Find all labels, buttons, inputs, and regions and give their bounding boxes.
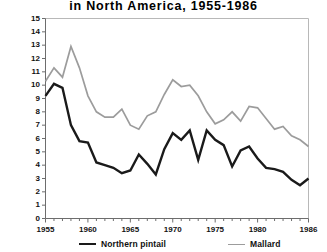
y-axis-tick-label: 1 bbox=[10, 200, 40, 209]
y-axis-ticks bbox=[42, 19, 46, 219]
legend-swatch-mallard bbox=[228, 244, 245, 245]
series-line-mallard bbox=[46, 47, 309, 147]
legend-label-mallard: Mallard bbox=[250, 239, 280, 249]
y-axis-tick-label: 14 bbox=[10, 27, 40, 36]
y-axis-tick-label: 12 bbox=[10, 54, 40, 63]
x-axis-tick-label: 1960 bbox=[68, 225, 108, 234]
legend-entry-mallard[interactable]: Mallard bbox=[228, 238, 280, 250]
y-axis-tick-label: 6 bbox=[10, 134, 40, 143]
y-axis-tick-label: 2 bbox=[10, 187, 40, 196]
y-axis-tick-label: 15 bbox=[10, 14, 40, 23]
y-axis-tick-label: 5 bbox=[10, 147, 40, 156]
y-axis-tick-label: 8 bbox=[10, 107, 40, 116]
legend-entry-northern-pintail[interactable]: Northern pintail bbox=[79, 238, 166, 250]
y-axis-tick-label: 7 bbox=[10, 120, 40, 129]
x-axis-tick-label: 1965 bbox=[110, 225, 150, 234]
x-axis-tick-label: 1975 bbox=[195, 225, 235, 234]
legend-swatch-northern-pintail bbox=[79, 243, 96, 245]
y-axis-tick-label: 10 bbox=[10, 80, 40, 89]
y-axis-tick-label: 4 bbox=[10, 160, 40, 169]
x-axis-tick-label: 1986 bbox=[289, 225, 327, 234]
legend-label-northern-pintail: Northern pintail bbox=[101, 239, 166, 249]
x-axis-ticks bbox=[46, 219, 309, 223]
y-axis-tick-label: 9 bbox=[10, 94, 40, 103]
y-axis-tick-label: 3 bbox=[10, 174, 40, 183]
series-line-northern-pintail bbox=[46, 84, 309, 185]
y-axis-tick-label: 13 bbox=[10, 40, 40, 49]
x-axis-tick-label: 1980 bbox=[238, 225, 278, 234]
plot-frame bbox=[46, 19, 309, 219]
x-axis-tick-label: 1955 bbox=[26, 225, 66, 234]
x-axis-tick-label: 1970 bbox=[153, 225, 193, 234]
plot-area bbox=[0, 0, 327, 252]
chart-container: in North America, 1955-1986 Northern pin… bbox=[0, 0, 327, 252]
chart-legend: Northern pintail Mallard bbox=[0, 238, 327, 252]
y-axis-tick-label: 11 bbox=[10, 67, 40, 76]
y-axis-tick-label: 0 bbox=[10, 214, 40, 223]
